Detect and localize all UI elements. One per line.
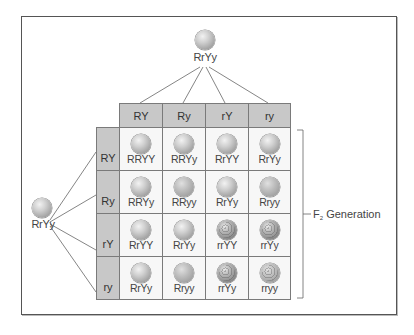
- parent-left-genotype: RrYy: [18, 218, 68, 230]
- round-green-pea-icon: [174, 177, 194, 197]
- punnett-cell: rrYy: [248, 213, 291, 257]
- cell-genotype: RrYY: [206, 153, 248, 165]
- cell-genotype: Rryy: [249, 196, 290, 208]
- cell-genotype: RrYy: [206, 196, 248, 208]
- wrinkled-yellow-pea-icon: [260, 220, 280, 240]
- gamete-header-row-3: rY: [96, 213, 120, 257]
- cell-genotype: rrYy: [206, 282, 248, 294]
- punnett-cell: RRYY: [119, 127, 163, 171]
- parent-top-pea-icon: [195, 30, 215, 50]
- wrinkled-yellow-pea-icon: [217, 263, 237, 283]
- round-yellow-pea-icon: [131, 134, 151, 154]
- cell-genotype: RRYY: [120, 153, 162, 165]
- punnett-cell: RrYy: [248, 127, 291, 171]
- punnett-cell: rrYy: [205, 256, 249, 300]
- punnett-cell: RrYY: [205, 127, 249, 171]
- round-yellow-pea-icon: [217, 134, 237, 154]
- round-yellow-pea-icon: [174, 134, 194, 154]
- parent-left-pea-icon: [32, 198, 52, 218]
- round-yellow-pea-icon: [217, 177, 237, 197]
- cell-genotype: rrYY: [206, 239, 248, 251]
- punnett-cell: RRyy: [162, 170, 206, 214]
- cell-genotype: rrYy: [249, 239, 290, 251]
- cell-genotype: RrYy: [249, 153, 290, 165]
- cell-genotype: RrYy: [120, 282, 162, 294]
- cell-genotype: RrYY: [120, 239, 162, 251]
- punnett-cell: rryy: [248, 256, 291, 300]
- gamete-header-row-4: ry: [96, 256, 120, 300]
- round-yellow-pea-icon: [131, 263, 151, 283]
- round-green-pea-icon: [174, 263, 194, 283]
- gamete-header-col-2: Ry: [162, 103, 206, 128]
- punnett-cell: RrYy: [162, 213, 206, 257]
- punnett-cell: RrYY: [119, 213, 163, 257]
- punnett-cell: Rryy: [248, 170, 291, 214]
- parent-top-genotype: RrYy: [180, 51, 230, 63]
- f2-prefix: F: [313, 208, 320, 220]
- wrinkled-green-pea-icon: [260, 263, 280, 283]
- wrinkled-yellow-pea-icon: [217, 220, 237, 240]
- gamete-header-col-3: rY: [205, 103, 249, 128]
- round-yellow-pea-icon: [260, 134, 280, 154]
- cell-genotype: Rryy: [163, 282, 205, 294]
- punnett-cell: RRYy: [119, 170, 163, 214]
- gamete-header-col-4: ry: [248, 103, 291, 128]
- punnett-cell: RRYy: [162, 127, 206, 171]
- round-yellow-pea-icon: [174, 220, 194, 240]
- gamete-header-col-1: RY: [119, 103, 163, 128]
- punnett-cell: RrYy: [205, 170, 249, 214]
- round-yellow-pea-icon: [131, 220, 151, 240]
- gamete-header-row-2: Ry: [96, 170, 120, 214]
- punnett-cell: RrYy: [119, 256, 163, 300]
- cell-genotype: RRyy: [163, 196, 205, 208]
- f2-suffix: Generation: [323, 208, 380, 220]
- punnett-cell: rrYY: [205, 213, 249, 257]
- gamete-header-row-1: RY: [96, 127, 120, 171]
- cell-genotype: rryy: [249, 282, 290, 294]
- cell-genotype: RrYy: [163, 239, 205, 251]
- cell-genotype: RRYy: [120, 196, 162, 208]
- round-yellow-pea-icon: [131, 177, 151, 197]
- round-green-pea-icon: [260, 177, 280, 197]
- f2-generation-label: F2 Generation: [313, 208, 381, 221]
- cell-genotype: RRYy: [163, 153, 205, 165]
- punnett-cell: Rryy: [162, 256, 206, 300]
